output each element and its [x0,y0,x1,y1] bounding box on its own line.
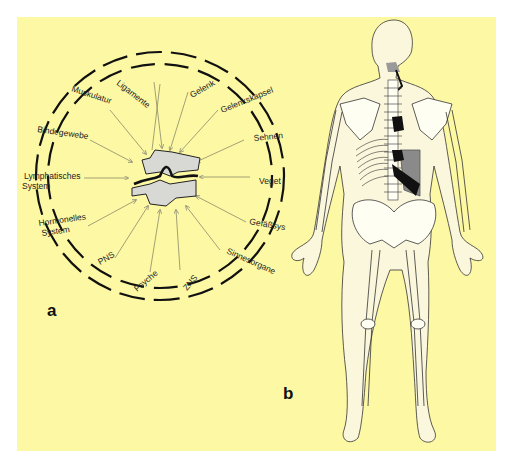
panel-label-a: a [47,301,57,320]
label-bindegewebe: Bindegewebe [37,124,90,141]
highlight-upper [392,116,404,132]
label-lymphatisches-system: System [22,181,50,191]
label-psyche: Psyche [132,268,160,294]
label-gefaessys: Gefäßsys [249,216,287,232]
label-lymphatisches: Lymphatisches [24,171,80,181]
skeleton-figure [292,20,483,442]
panel-label-b: b [283,384,293,403]
interaction-ring-diagram: Ligamente Gelenk Gelenkskapsel Sehnen Ve… [22,52,286,320]
diagram-canvas: Ligamente Gelenk Gelenkskapsel Sehnen Ve… [0,0,511,468]
vertebra-icon [132,150,200,206]
label-ligamente: Ligamente [115,78,153,110]
label-veget: Veget [259,176,281,186]
label-gelenk: Gelenk [188,77,217,100]
label-pns: PNS [96,249,116,267]
